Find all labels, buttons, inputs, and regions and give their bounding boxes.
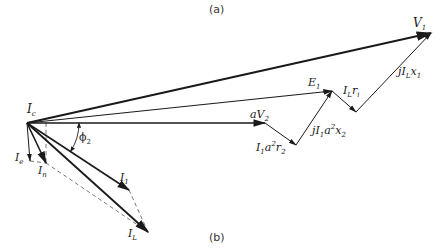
phasor-diagram <box>0 0 441 252</box>
construction-line <box>129 190 148 232</box>
label-jI1a2x2: jI1a2x2 <box>312 124 346 139</box>
panel-b-label: (b) <box>209 232 225 243</box>
label-IL: IL <box>128 228 137 242</box>
label-jILx1: jILx1 <box>398 66 421 80</box>
label-aV2: aV2 <box>250 109 269 123</box>
panel-a-label: (a) <box>209 4 224 15</box>
label-I1a2r2: I1a2r2 <box>256 141 286 156</box>
construction-line <box>30 161 46 163</box>
label-ILr1: ILri <box>343 85 360 99</box>
phasor-E1 <box>27 91 332 123</box>
label-V1: V1 <box>413 17 426 32</box>
label-E1: E1 <box>308 77 321 91</box>
label-Ic: Ic <box>27 103 36 118</box>
label-Ie: Ie <box>15 152 24 166</box>
label-I1: I1 <box>120 172 129 186</box>
phi2-angle-arc <box>71 123 80 152</box>
phasor-V1 <box>27 33 431 123</box>
label-In: In <box>38 165 47 179</box>
label-phi2: ϕ2 <box>79 132 91 146</box>
